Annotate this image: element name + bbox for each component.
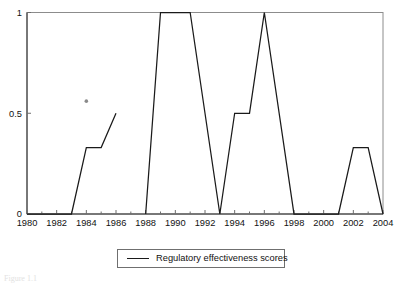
x-tick-label: 1998	[284, 218, 305, 228]
figure-caption: Figure 1.1	[4, 274, 37, 283]
series-line-regulatory-effectiveness	[146, 13, 383, 215]
chart-legend[interactable]: Regulatory effectiveness scores	[117, 249, 285, 268]
y-tick-label: 0.5	[9, 109, 22, 119]
x-tick-label: 2002	[343, 218, 364, 228]
y-axis-tick-labels: 00.51	[9, 8, 22, 220]
y-tick-label: 1	[17, 8, 22, 18]
legend-label: Regulatory effectiveness scores	[156, 254, 288, 263]
y-axis-ticks	[27, 13, 31, 215]
x-tick-label: 1984	[76, 218, 97, 228]
x-tick-label: 1990	[165, 218, 186, 228]
regulatory-effectiveness-line-chart: 00.51 1980198219841986198819901992199419…	[0, 0, 398, 284]
x-tick-label: 2000	[313, 218, 334, 228]
data-series-group	[27, 13, 383, 215]
legend-line-swatch-icon	[127, 258, 149, 259]
annotation-group	[85, 99, 89, 103]
figure-root: 00.51 1980198219841986198819901992199419…	[0, 0, 398, 284]
x-tick-label: 1992	[195, 218, 216, 228]
x-axis-tick-labels: 1980198219841986198819901992199419961998…	[17, 218, 394, 228]
series-line-regulatory-effectiveness	[27, 113, 116, 214]
x-tick-label: 1996	[254, 218, 275, 228]
x-tick-label: 1980	[17, 218, 38, 228]
x-tick-label: 1982	[46, 218, 67, 228]
x-tick-label: 2004	[373, 218, 394, 228]
x-tick-label: 1988	[135, 218, 156, 228]
stray-dot	[85, 99, 89, 103]
x-tick-label: 1986	[106, 218, 127, 228]
x-tick-label: 1994	[224, 218, 245, 228]
